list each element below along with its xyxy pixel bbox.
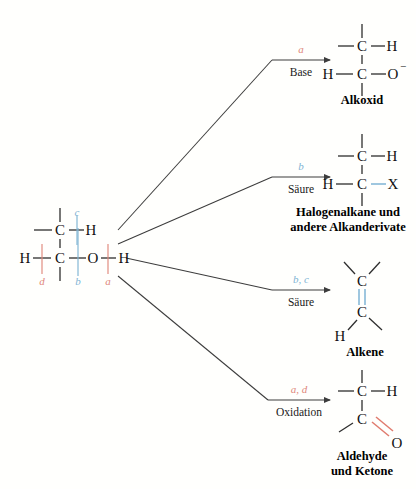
carbonyl-bottom-carbon: C (357, 412, 367, 427)
alkoxide-oxygen: O (388, 67, 399, 82)
bond-label-c: c (75, 206, 80, 218)
alkoxide-top-carbon: C (357, 39, 367, 54)
arrow-letters-haloalkane: b (298, 160, 304, 172)
reactant-top-hydrogen: H (86, 223, 97, 238)
haloalkane-top-hydrogen: H (387, 149, 398, 164)
arrow-letters-alkene: b, c (293, 273, 309, 285)
haloalkane-left-hydrogen: H (323, 177, 334, 192)
alkoxide-top-hydrogen: H (387, 39, 398, 54)
reactant-oxygen: O (88, 251, 99, 266)
haloalkane-top-carbon: C (357, 149, 367, 164)
reactant-top-carbon: C (55, 223, 65, 238)
reactant-bottom-carbon: C (55, 251, 65, 266)
haloalkane-bottom-carbon: C (357, 177, 367, 192)
product-name-carbonyl-line1: Aldehyde (337, 449, 388, 465)
connector-alkene (126, 258, 272, 290)
arrow-condition-base: Base (290, 66, 312, 78)
connector-carbonyl (118, 276, 268, 400)
arrow-condition-oxidation: Oxidation (276, 406, 322, 418)
alkoxide-bottom-carbon: C (357, 67, 367, 82)
alkoxide-left-hydrogen: H (323, 67, 334, 82)
alkoxide-negative-charge: − (400, 60, 406, 72)
arrow-letters-alkoxide: a (298, 43, 304, 55)
reaction-diagram: C H H C O H c d b a a Base b Säure b, c … (0, 0, 416, 489)
alkene-top-carbon: C (357, 274, 367, 289)
bond-c-o-double-red (372, 417, 393, 436)
product-name-haloalkane-line2: andere Alkanderivate (290, 220, 405, 236)
carbonyl-top-carbon: C (357, 384, 367, 399)
alkene-hydrogen: H (335, 329, 346, 344)
haloalkane-halogen: X (388, 177, 399, 192)
bond-label-d: d (39, 275, 45, 287)
arrow-condition-saeure-2: Säure (288, 296, 314, 308)
bond-label-b: b (75, 275, 81, 287)
product-alkoxide-bonds (336, 24, 386, 96)
carbonyl-top-hydrogen: H (387, 384, 398, 399)
diagram-vector-layer (0, 0, 416, 489)
reactant-hydroxyl-hydrogen: H (119, 251, 130, 266)
arrow-letters-carbonyl: a, d (291, 383, 308, 395)
connector-haloalkane (118, 177, 272, 244)
product-haloalkane-bonds (336, 134, 385, 206)
alkene-bottom-carbon: C (357, 305, 367, 320)
reactant-bonds (33, 208, 116, 281)
arrow-condition-saeure-1: Säure (288, 183, 314, 195)
product-name-haloalkane-line1: Halogenalkane und (296, 205, 400, 221)
product-name-alkoxide: Alkoxid (341, 93, 383, 109)
reactant-bond-cuts (42, 215, 108, 276)
carbonyl-oxygen: O (392, 436, 403, 451)
product-name-carbonyl-line2: und Ketone (331, 464, 393, 480)
connector-alkoxide (118, 60, 272, 230)
product-name-alkene: Alkene (346, 345, 384, 361)
reactant-left-hydrogen: H (20, 251, 31, 266)
bond-label-a: a (105, 275, 111, 287)
